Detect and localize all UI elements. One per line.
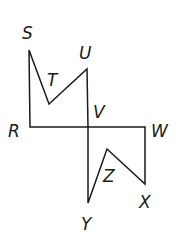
label-v: V <box>93 102 106 122</box>
label-x: X <box>138 192 151 212</box>
label-r: R <box>8 121 20 141</box>
geometry-diagram: S T U V R W Z X Y <box>0 0 176 240</box>
polygon-vwxzy <box>88 127 145 203</box>
label-y: Y <box>81 214 93 234</box>
label-u: U <box>79 43 92 63</box>
label-t: T <box>47 70 59 90</box>
label-s: S <box>22 23 33 43</box>
label-w: W <box>151 121 169 141</box>
label-z: Z <box>102 166 115 186</box>
